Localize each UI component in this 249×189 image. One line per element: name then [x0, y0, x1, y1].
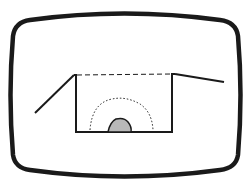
left-slope [35, 75, 74, 113]
diagram-canvas [0, 0, 249, 189]
pit-top-dashed [77, 74, 172, 75]
right-slope [175, 74, 224, 82]
mound [108, 118, 131, 132]
screen-frame [11, 14, 241, 177]
